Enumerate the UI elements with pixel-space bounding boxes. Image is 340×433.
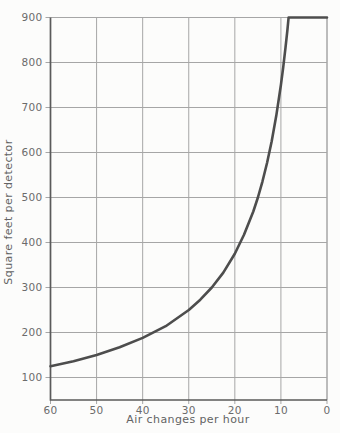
y-tick-label: 100: [22, 371, 43, 383]
y-tick-label: 300: [22, 281, 43, 293]
tick-label-layer: 6050403020100100200300400500600700800900: [22, 11, 331, 416]
y-tick-label: 500: [22, 191, 43, 203]
y-tick-label: 900: [22, 11, 43, 23]
y-tick-label: 700: [22, 101, 43, 113]
tick-layer: [46, 18, 328, 405]
y-tick-label: 200: [22, 326, 43, 338]
y-tick-label: 800: [22, 56, 43, 68]
grid-layer: [51, 18, 328, 401]
x-axis-title: Air changes per hour: [126, 413, 249, 426]
x-tick-label: 0: [324, 404, 331, 416]
line-chart-svg: 6050403020100100200300400500600700800900…: [0, 0, 340, 433]
x-tick-label: 50: [90, 404, 104, 416]
y-tick-label: 400: [22, 236, 43, 248]
x-tick-label: 10: [274, 404, 288, 416]
x-tick-label: 60: [44, 404, 58, 416]
chart: 6050403020100100200300400500600700800900…: [0, 0, 340, 433]
y-tick-label: 600: [22, 146, 43, 158]
y-axis-title: Square feet per detector: [2, 139, 15, 284]
